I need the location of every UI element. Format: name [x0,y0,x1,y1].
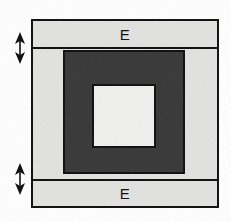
top-layer-band: E [31,19,219,49]
lower-dimension-arrow-icon [12,162,28,196]
diagram-canvas: E E [0,0,231,222]
bottom-layer-band: E [31,179,219,208]
inner-cavity-region [92,84,156,148]
upper-dimension-arrow-icon [12,31,28,65]
top-layer-label: E [120,27,131,42]
bottom-layer-label: E [120,186,131,201]
